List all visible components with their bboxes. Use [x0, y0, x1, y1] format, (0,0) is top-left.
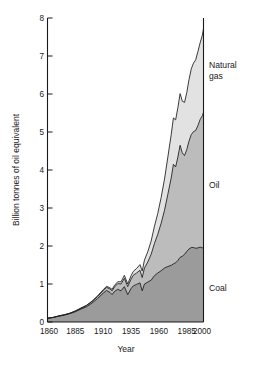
x-tick-label-1960: 1960 [150, 327, 169, 336]
y-tick-label-7: 7 [39, 52, 44, 61]
x-axis-title: Year [117, 344, 134, 354]
series-label-natural-gas-line2: gas [209, 71, 223, 81]
y-tick-label-0: 0 [39, 318, 44, 327]
y-tick-label-5: 5 [39, 128, 44, 137]
energy-consumption-chart-figure: 8 7 6 5 4 3 2 1 0 1860 1885 1910 1935 19… [0, 0, 262, 372]
y-tick-label-3: 3 [39, 204, 44, 213]
x-tick-label-1910: 1910 [94, 327, 113, 336]
y-tick-label-1: 1 [39, 280, 44, 289]
series-labels: Natural gas Oil Coal [209, 60, 237, 293]
y-axis-tick-labels: 8 7 6 5 4 3 2 1 0 [39, 14, 44, 327]
x-axis-tick-labels: 1860 1885 1910 1935 1960 1985 2000 [40, 327, 212, 336]
y-tick-label-8: 8 [39, 14, 44, 23]
series-label-natural-gas-line1: Natural [209, 60, 237, 70]
y-tick-label-4: 4 [39, 166, 44, 175]
x-tick-label-1860: 1860 [40, 327, 59, 336]
chart-canvas: 8 7 6 5 4 3 2 1 0 1860 1885 1910 1935 19… [0, 0, 262, 372]
y-tick-label-2: 2 [39, 242, 44, 251]
series-label-coal: Coal [209, 283, 227, 293]
x-tick-label-1885: 1885 [66, 327, 85, 336]
y-tick-label-6: 6 [39, 90, 44, 99]
x-tick-label-2000: 2000 [193, 327, 212, 336]
x-tick-label-1935: 1935 [122, 327, 141, 336]
series-label-oil: Oil [209, 180, 220, 190]
y-axis-title: Billion tonnes of oil equivalent [11, 113, 21, 226]
